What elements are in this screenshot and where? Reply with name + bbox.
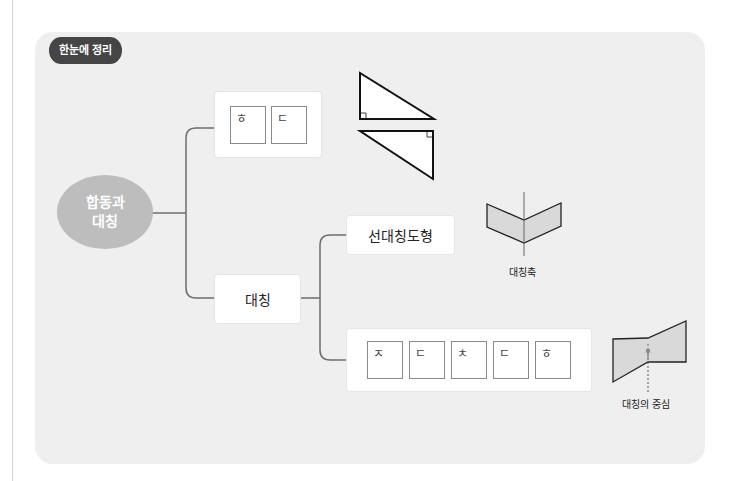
center-of-symmetry-caption: 대칭의 중심 bbox=[622, 396, 670, 411]
symmetry-axis-caption: 대칭축 bbox=[509, 264, 536, 279]
letter-box: ㅊ bbox=[451, 341, 487, 379]
root-node: 합동과 대칭 bbox=[57, 175, 153, 249]
line-symmetric-figure bbox=[487, 192, 561, 256]
symmetry-node: 대칭 bbox=[215, 275, 300, 323]
letter-box: ㄷ bbox=[409, 341, 445, 379]
letter-box: ㅎ bbox=[535, 341, 571, 379]
congruent-triangles-figure bbox=[360, 73, 434, 179]
letter: ㄷ bbox=[415, 344, 426, 361]
line-symmetry-node: 선대칭도형 bbox=[347, 216, 454, 254]
letter: ㅎ bbox=[236, 109, 247, 126]
letter-box: ㅈ bbox=[367, 341, 403, 379]
letter-box: ㅎ bbox=[230, 106, 266, 144]
letter-box: ㄷ bbox=[493, 341, 529, 379]
point-symmetric-figure bbox=[613, 321, 686, 392]
letter: ㄷ bbox=[277, 109, 288, 126]
congruence-letter-card: ㅎ ㄷ bbox=[215, 92, 321, 157]
line-symmetry-label: 선대칭도형 bbox=[368, 225, 433, 245]
letter-box: ㄷ bbox=[271, 106, 307, 144]
letter: ㄷ bbox=[499, 344, 510, 361]
letter: ㅈ bbox=[373, 344, 384, 361]
letter: ㅎ bbox=[541, 344, 552, 361]
letter: ㅊ bbox=[457, 344, 468, 361]
point-symmetry-letter-card: ㅈ ㄷ ㅊ ㄷ ㅎ bbox=[347, 329, 591, 391]
symmetry-label: 대칭 bbox=[245, 289, 271, 309]
root-node-line2: 대칭 bbox=[86, 212, 125, 231]
root-node-line1: 합동과 bbox=[86, 193, 125, 212]
